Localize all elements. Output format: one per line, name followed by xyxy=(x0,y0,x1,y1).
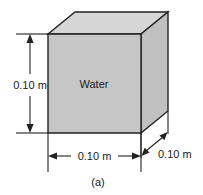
width-arrowhead-right-icon xyxy=(132,152,141,159)
height-arrowhead-down-icon xyxy=(26,124,33,133)
cube-shape xyxy=(48,12,168,133)
water-label: Water xyxy=(80,78,109,90)
figure-container: Water 0.10 m xyxy=(0,0,203,195)
depth-dimension-label: 0.10 m xyxy=(158,148,192,160)
height-dimension-label: 0.10 m xyxy=(13,79,47,91)
width-dimension-label: 0.10 m xyxy=(78,150,112,162)
figure-caption: (a) xyxy=(91,176,104,188)
cube-right-face xyxy=(141,12,168,133)
cube-diagram: Water 0.10 m xyxy=(0,0,203,195)
height-arrowhead-up-icon xyxy=(26,34,33,43)
width-arrowhead-left-icon xyxy=(48,152,57,159)
width-dimension: 0.10 m xyxy=(48,133,141,172)
height-dimension: 0.10 m xyxy=(13,34,48,133)
